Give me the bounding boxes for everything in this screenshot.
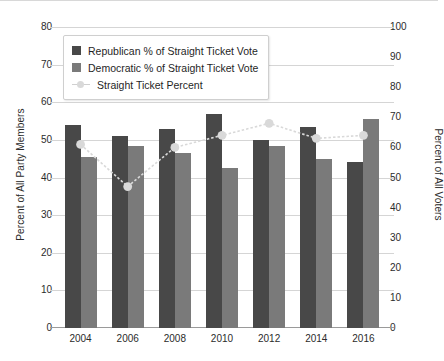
- line-marker-straight-ticket: [170, 143, 179, 152]
- line-marker-straight-ticket: [123, 182, 132, 191]
- y-axis-right-tick: 70: [390, 112, 420, 122]
- y-axis-right-tick: 10: [390, 293, 420, 303]
- x-axis-tick-label: 2010: [202, 333, 242, 344]
- line-marker-straight-ticket: [76, 140, 85, 149]
- line-marker-straight-ticket: [359, 131, 368, 140]
- y-axis-left-tick: 30: [22, 210, 52, 220]
- x-axis-ticks: 2004200620082010201220142016: [57, 333, 387, 344]
- y-axis-left-tick: 10: [22, 285, 52, 295]
- legend-label-straight-ticket: Straight Ticket Percent: [97, 79, 203, 91]
- y-axis-right-tick: 90: [390, 52, 420, 62]
- y-axis-right-tick: 80: [390, 82, 420, 92]
- x-axis-tick-label: 2008: [155, 333, 195, 344]
- y-axis-right-tick: 100: [390, 22, 420, 32]
- y-axis-right-tick: 40: [390, 203, 420, 213]
- chart-legend: Republican % of Straight Ticket Vote Dem…: [63, 35, 269, 100]
- y-axis-left-tick: 60: [22, 97, 52, 107]
- y-axis-right-title: Percent of All Voters: [433, 95, 444, 255]
- y-axis-left-tick: 0: [22, 323, 52, 333]
- line-marker-straight-ticket: [312, 134, 321, 143]
- legend-item-republican: Republican % of Straight Ticket Vote: [72, 42, 258, 59]
- x-axis-tick-label: 2012: [249, 333, 289, 344]
- y-axis-right-tick: 30: [390, 233, 420, 243]
- y-axis-left-tick: 50: [22, 135, 52, 145]
- legend-label-republican: Republican % of Straight Ticket Vote: [88, 45, 258, 57]
- legend-label-democratic: Democratic % of Straight Ticket Vote: [88, 62, 258, 74]
- x-axis-tick-label: 2004: [61, 333, 101, 344]
- y-axis-left-ticks: 80706050403020100: [22, 1, 52, 361]
- y-axis-left-tick: 80: [22, 22, 52, 32]
- y-axis-right-tick: 20: [390, 263, 420, 273]
- legend-item-straight-ticket: Straight Ticket Percent: [72, 76, 258, 93]
- legend-swatch-democratic: [72, 63, 81, 72]
- legend-item-democratic: Democratic % of Straight Ticket Vote: [72, 59, 258, 76]
- y-axis-right-tick: 60: [390, 142, 420, 152]
- legend-marker-straight-ticket: [72, 80, 90, 89]
- line-marker-straight-ticket: [218, 131, 227, 140]
- y-axis-right-tick: 50: [390, 173, 420, 183]
- x-axis-tick-label: 2014: [296, 333, 336, 344]
- y-axis-left-tick: 70: [22, 60, 52, 70]
- y-axis-right-tick: 0: [390, 323, 420, 333]
- x-axis-tick-label: 2006: [108, 333, 148, 344]
- legend-swatch-republican: [72, 46, 81, 55]
- y-axis-right-ticks: 1009080706050403020100: [390, 1, 420, 361]
- y-axis-left-tick: 20: [22, 248, 52, 258]
- line-marker-straight-ticket: [265, 119, 274, 128]
- y-axis-left-tick: 40: [22, 173, 52, 183]
- x-axis-tick-label: 2016: [343, 333, 383, 344]
